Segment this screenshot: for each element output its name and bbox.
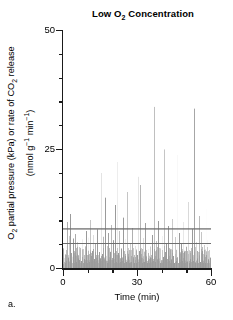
y-title-co-sub: 2 [11,79,18,83]
y-tick-minor [59,173,64,174]
x-tick-minor [162,269,163,273]
y-tick-label: 25 [31,144,55,154]
x-tick-label: 30 [125,277,149,287]
x-tick-minor [88,269,89,273]
chart-title: Low O2 Concentration [63,8,223,21]
chart-title-post: Concentration [126,8,194,19]
plot-area [63,30,211,268]
y-axis-title-line1: O2 partial pressure (kPa) or rate of CO2… [5,46,21,239]
x-tick-label: 60 [199,277,223,287]
y-tick-major [56,149,63,150]
panel-label: a. [8,299,16,309]
y-tick-major [56,30,63,31]
y-tick-minor [59,244,64,245]
chart-title-pre: Low O [92,8,122,19]
y-tick-label: 50 [31,25,55,35]
y-title-end: release [6,46,16,79]
y-tick-minor [59,220,64,221]
y-units-b: min [25,121,35,138]
y-tick-minor [59,78,64,79]
y-tick-minor [59,125,64,126]
x-tick-major [211,269,212,276]
y-units-a-sup: −1 [23,138,30,146]
x-tick-minor [112,269,113,273]
x-axis-title: Time (min) [63,291,211,302]
y-title-o-sub: 2 [11,229,18,233]
y-axis-title-line2: (nmol g−1 min−1) [21,46,37,239]
y-tick-minor [59,54,64,55]
y-title-mid: partial pressure (kPa) or rate of CO [6,83,16,229]
y-tick-major [56,268,63,269]
y-tick-minor [59,197,64,198]
x-tick-label: 0 [51,277,75,287]
x-tick-major [63,269,64,276]
y-axis-title: O2 partial pressure (kPa) or rate of CO2… [6,18,36,268]
y-tick-minor [59,101,64,102]
x-tick-major [137,269,138,276]
y-units-c: ) [25,110,35,113]
y-units-b-sup: −1 [23,113,30,121]
x-tick-minor [186,269,187,273]
y-title-o: O [6,233,16,240]
y-tick-label: 0 [31,263,55,273]
figure-panel: Low O2 Concentration O2 partial pressure… [0,0,233,320]
data-series-canvas [63,30,211,268]
